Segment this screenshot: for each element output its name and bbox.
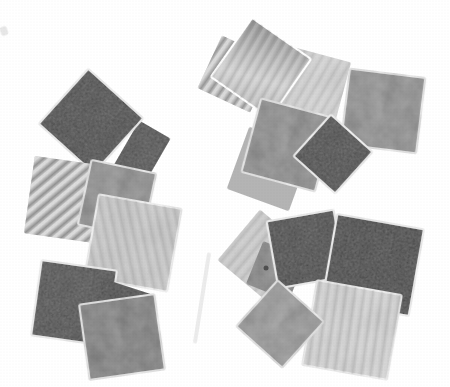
halftone-overlay — [0, 0, 450, 387]
figure-canvas — [0, 0, 450, 387]
page — [0, 0, 450, 387]
